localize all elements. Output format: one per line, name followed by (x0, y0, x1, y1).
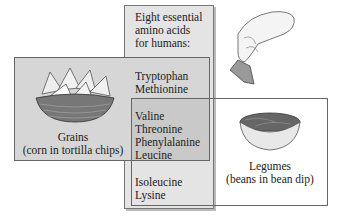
amino-acid: Valine (135, 110, 200, 123)
legumes-sublabel: (beans in bean dip) (215, 173, 325, 186)
amino-acid: Phenylalanine (135, 136, 200, 149)
heading-line: amino acids (135, 24, 215, 37)
amino-acid: Leucine (135, 149, 200, 162)
grains-caption: Grains (corn in tortilla chips) (14, 131, 132, 157)
amino-acid: Lysine (135, 189, 182, 202)
heading-line: Eight essential (135, 11, 215, 24)
amino-acid: Methionine (135, 83, 188, 96)
grains-sublabel: (corn in tortilla chips) (14, 144, 132, 157)
legumes-label: Legumes (215, 160, 325, 173)
amino-acid: Isoleucine (135, 176, 182, 189)
bean-dip-bowl-icon (235, 110, 305, 155)
amino-acid: Tryptophan (135, 70, 188, 83)
shared-amino-acids: Valine Threonine Phenylalanine Leucine (135, 110, 200, 162)
heading-line: for humans: (135, 37, 215, 50)
amino-acid: Threonine (135, 123, 200, 136)
hand-holding-chip-icon (224, 4, 304, 86)
legumes-caption: Legumes (beans in bean dip) (215, 160, 325, 186)
grains-only-amino-acids: Tryptophan Methionine (135, 70, 188, 96)
tortilla-chips-basket-icon (30, 64, 120, 124)
grains-label: Grains (14, 131, 132, 144)
legumes-only-amino-acids: Isoleucine Lysine (135, 176, 182, 202)
amino-acids-heading: Eight essential amino acids for humans: (135, 11, 215, 50)
